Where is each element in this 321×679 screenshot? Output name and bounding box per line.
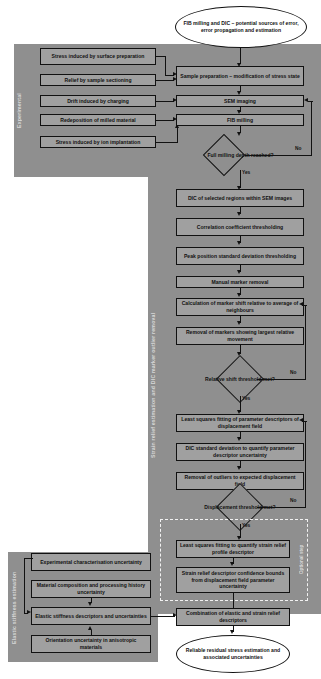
edge-exp-char-v [24, 558, 25, 613]
edge-no-depth-h1 [245, 155, 312, 156]
section-label-strain-relief: Strain relief estimation and DIC marker … [150, 240, 156, 530]
node-relief-sample-sectioning: Relief by sample sectioning [40, 74, 156, 86]
section-label-elastic-stiffness: Elastic stiffness estimation [11, 558, 17, 658]
arrowhead-lsq-strain-to-conf [230, 562, 234, 566]
node-stress-surface-preparation: Stress induced by surface preparation [40, 48, 156, 65]
arrowhead-shift-to-removal [237, 321, 241, 325]
arrowhead-no-shift [299, 302, 303, 306]
arrowhead-lsq-to-stddev [237, 437, 241, 441]
edge-start-to-sample-prep [240, 48, 241, 64]
edge-no-disp-h1 [257, 507, 306, 508]
edge-label-no-depth: No [295, 146, 301, 151]
node-material-composition-uncertainty: Material composition and processing hist… [31, 580, 151, 598]
node-orientation-uncertainty: Orientation uncertainty in anisotropic m… [31, 635, 151, 653]
node-sem-imaging: SEM imaging [176, 95, 304, 107]
edge-surface-prep-v [165, 56, 166, 76]
flowchart-canvas: Experimental Strain relief estimation an… [0, 0, 321, 679]
arrowhead-manual-to-shift [237, 293, 241, 297]
node-end-reliable-residual-stress: Reliable residual stress estimation and … [176, 635, 290, 673]
edge-sectioning-h [156, 80, 174, 81]
node-dic-selected-regions: DIC of selected regions within SEM image… [176, 189, 304, 207]
edge-implantation-v [177, 128, 178, 142]
node-experimental-characterisation-uncertainty: Experimental characterisation uncertaint… [31, 553, 151, 571]
edge-label-no-shift: No [290, 370, 296, 375]
arrowhead-peak-to-manual [237, 270, 241, 274]
edge-charging-h [156, 101, 174, 102]
edge-orientation-v [91, 630, 92, 635]
arrowhead-mat-comp-to-elastic [88, 602, 92, 606]
node-fib-milling: FIB milling [176, 114, 304, 126]
edge-elastic-to-combination [151, 616, 175, 617]
arrowhead-dic-to-corr [237, 212, 241, 216]
arrowhead-no-depth [304, 98, 308, 102]
node-correlation-coefficient-thresholding: Correlation coefficient thresholding [176, 218, 304, 236]
edge-no-shift-h1 [257, 379, 306, 380]
section-label-experimental: Experimental [16, 52, 22, 170]
arrowhead-no-disp [299, 418, 303, 422]
node-manual-marker-removal: Manual marker removal [176, 276, 304, 288]
arrowhead-stddev-to-outlier [237, 466, 241, 470]
node-stress-ion-implantation: Stress induced by ion implantation [40, 136, 156, 148]
edge-label-yes-depth: Yes [242, 170, 250, 175]
edge-implantation-h [156, 142, 178, 143]
node-sample-preparation: Sample preparation – modification of str… [176, 66, 304, 86]
node-least-squares-strain-relief: Least squares fitting to quantify strain… [176, 540, 290, 558]
node-drift-charging: Drift induced by charging [40, 95, 156, 107]
arrowhead-orientation-to-elastic [88, 626, 92, 630]
node-peak-position-thresholding: Peak position standard deviation thresho… [176, 247, 304, 265]
edge-redeposition-h [156, 120, 174, 121]
edge-label-no-disp: No [290, 498, 296, 503]
node-combination-descriptors: Combination of elastic and strain relief… [176, 608, 290, 626]
edge-exp-char-h-top [24, 558, 33, 559]
node-start: FIB milling and DIC – potential sources … [175, 6, 307, 48]
edge-no-depth-h2 [308, 101, 313, 102]
node-redeposition-milled-material: Redeposition of milled material [40, 114, 156, 126]
arrowhead-corr-to-peak [237, 241, 241, 245]
node-marker-removal-largest-movement: Removal of markers showing largest relat… [176, 327, 304, 345]
edge-no-depth-v [311, 101, 312, 156]
node-strain-relief-confidence-bounds: Strain relief descriptor confidence boun… [176, 567, 290, 593]
section-label-optional-step: Optional step [299, 525, 304, 593]
node-dic-standard-deviation: DIC standard deviation to quantify param… [176, 443, 304, 461]
node-elastic-stiffness-descriptors: Elastic stiffness descriptors and uncert… [31, 607, 151, 625]
node-marker-shift-calculation: Calculation of marker shift relative to … [176, 298, 304, 316]
edge-no-disp-v [305, 421, 306, 508]
arrowhead-exp-char-to-elastic [27, 610, 31, 614]
arrowhead-fib-to-decision [237, 132, 241, 136]
arrowhead-combination-to-end [230, 630, 234, 634]
node-least-squares-parameter-descriptors: Least squares fitting of parameter descr… [176, 414, 304, 432]
edge-label-yes-shift: Yes [242, 396, 250, 401]
edge-no-shift-v [305, 305, 306, 380]
